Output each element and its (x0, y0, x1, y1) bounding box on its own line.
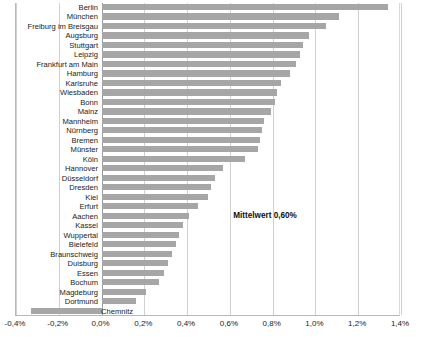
category-label: Bochum (0, 278, 98, 287)
category-label: Hamburg (0, 69, 98, 78)
bar (102, 279, 160, 285)
category-labels: BerlinMünchenFreiburg im BreisgauAugsbur… (0, 3, 100, 316)
x-tick-label: -0,2% (47, 319, 68, 328)
x-tick-label: 1,2% (348, 319, 366, 328)
bar (102, 241, 177, 247)
bar (102, 175, 215, 181)
bar (102, 42, 303, 48)
x-tick-label: 1,4% (391, 319, 409, 328)
category-label: Dortmund (0, 297, 98, 306)
category-label: Stuttgart (0, 41, 98, 50)
category-label: Freiburg im Breisgau (0, 22, 98, 31)
bar (102, 222, 183, 228)
category-label: Mannheim (0, 117, 98, 126)
bar (102, 213, 190, 219)
bar (102, 70, 290, 76)
bar (102, 61, 297, 67)
x-tick-label: 0,2% (134, 319, 152, 328)
gridline-1,4% (401, 3, 402, 315)
category-label: Bonn (0, 98, 98, 107)
category-label: Bremen (0, 136, 98, 145)
category-label: Braunschweig (0, 250, 98, 259)
category-label: Augsburg (0, 31, 98, 40)
bar (102, 118, 265, 124)
bar (102, 289, 147, 295)
x-tick-label: -0,4% (5, 319, 26, 328)
category-label: Frankfurt am Main (0, 60, 98, 69)
bar (102, 51, 301, 57)
category-label: Düsseldorf (0, 174, 98, 183)
bar (102, 203, 198, 209)
category-label: Leipzig (0, 50, 98, 59)
bar (102, 184, 211, 190)
category-label: Kiel (0, 193, 98, 202)
bar (102, 99, 275, 105)
bar-chart: BerlinMünchenFreiburg im BreisgauAugsbur… (0, 0, 423, 341)
category-label: Duisburg (0, 259, 98, 268)
bar (102, 232, 179, 238)
category-label: Kassel (0, 221, 98, 230)
x-tick-label: 0,4% (177, 319, 195, 328)
x-tick-label: 0,0% (91, 319, 109, 328)
bar (102, 137, 260, 143)
bar (102, 89, 277, 95)
bar (102, 165, 224, 171)
category-label: München (0, 12, 98, 21)
category-label: Aachen (0, 212, 98, 221)
category-label: Berlin (0, 3, 98, 12)
x-axis-tick-labels: -0,4%-0,2%0,0%0,2%0,4%0,6%0,8%1,0%1,2%1,… (0, 319, 423, 335)
category-label: Karlsruhe (0, 79, 98, 88)
bar (102, 13, 339, 19)
bar (102, 270, 164, 276)
bar (102, 194, 209, 200)
category-label: Köln (0, 155, 98, 164)
x-tick-label: 0,6% (220, 319, 238, 328)
category-label: Münster (0, 145, 98, 154)
bar (102, 32, 309, 38)
category-label: Dresden (0, 183, 98, 192)
x-tick-label: 0,8% (263, 319, 281, 328)
bar (102, 80, 282, 86)
category-label: Chemnitz (101, 307, 133, 316)
bar (102, 156, 245, 162)
category-label: Bielefeld (0, 240, 98, 249)
mean-annotation: Mittelwert 0,60% (233, 211, 297, 220)
category-label: Wuppertal (0, 231, 98, 240)
category-label: Mainz (0, 107, 98, 116)
category-label: Nürnberg (0, 126, 98, 135)
bar (102, 127, 262, 133)
bar (102, 23, 327, 29)
bar (102, 108, 271, 114)
x-tick-label: 1,0% (305, 319, 323, 328)
category-label: Essen (0, 269, 98, 278)
bar (102, 4, 389, 10)
category-label: Erfurt (0, 202, 98, 211)
bar (102, 146, 258, 152)
category-label: Magdeburg (0, 288, 98, 297)
bar (102, 251, 173, 257)
category-label: Wiesbaden (0, 88, 98, 97)
bar (102, 298, 136, 304)
bar (102, 260, 168, 266)
category-label: Hannover (0, 164, 98, 173)
